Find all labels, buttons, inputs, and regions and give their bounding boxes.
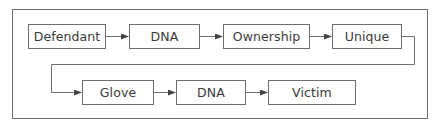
node-unique: Unique xyxy=(332,24,402,49)
connectors xyxy=(0,0,439,126)
node-dna-top: DNA xyxy=(129,24,200,49)
node-glove: Glove xyxy=(82,80,154,105)
node-defendant: Defendant xyxy=(28,24,106,49)
node-victim: Victim xyxy=(268,80,356,105)
node-ownership: Ownership xyxy=(223,24,310,49)
node-dna-bottom: DNA xyxy=(176,80,246,105)
